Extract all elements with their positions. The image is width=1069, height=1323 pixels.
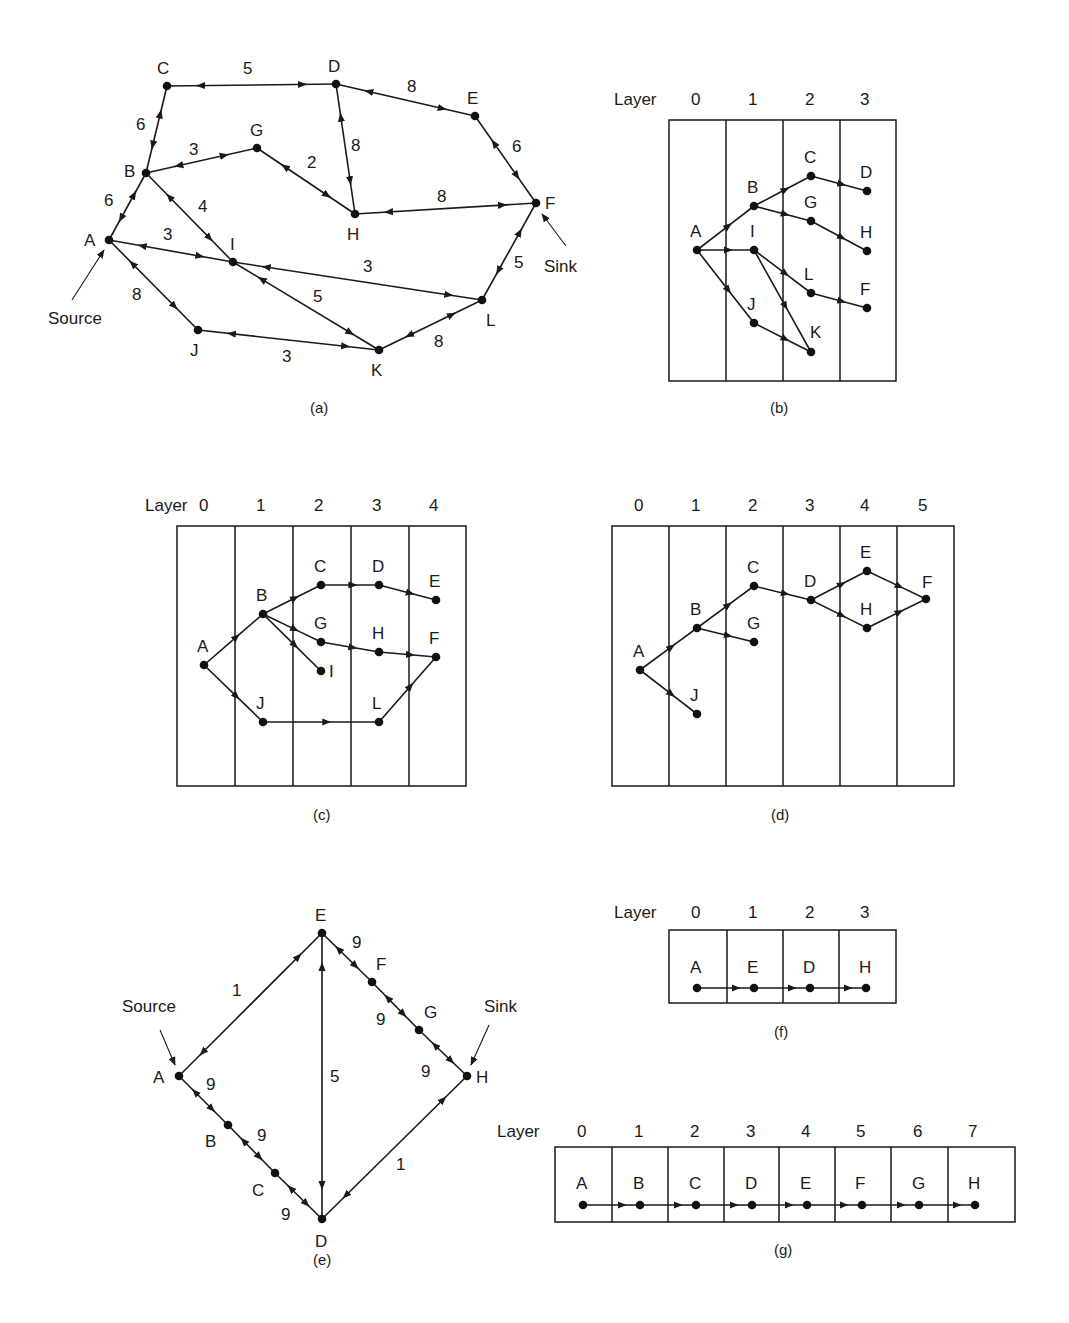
weight-G-H: 9	[421, 1062, 430, 1081]
node-label-B: B	[690, 600, 701, 619]
edge-B-I	[263, 614, 321, 671]
node-label-J: J	[256, 694, 265, 713]
layer-index-f-1: 1	[748, 903, 757, 922]
node-label-F: F	[376, 955, 386, 974]
node-label-A: A	[197, 637, 209, 656]
weight-E-F: 9	[352, 933, 361, 952]
node-F	[368, 978, 377, 987]
layer-index-d-2: 2	[748, 496, 757, 515]
node-A	[636, 666, 645, 675]
node-H	[375, 648, 384, 657]
node-label-B: B	[633, 1174, 644, 1193]
layer-index-d-0: 0	[634, 496, 643, 515]
node-label-I: I	[329, 662, 334, 681]
node-label-J: J	[190, 341, 199, 360]
node-label-E: E	[747, 958, 758, 977]
edge-B-G	[146, 148, 257, 173]
node-label-K: K	[810, 323, 822, 342]
edge-G-H	[811, 221, 867, 251]
sink-pointer	[542, 214, 566, 246]
node-A	[693, 246, 702, 255]
weight-C-D: 9	[281, 1205, 290, 1224]
node-D	[332, 80, 341, 89]
source-label: Source	[48, 309, 102, 328]
node-label-D: D	[372, 557, 384, 576]
node-D	[807, 596, 816, 605]
edge-G-H	[321, 642, 379, 652]
edge-C-D	[811, 176, 867, 191]
sink-pointer	[471, 1025, 489, 1065]
node-B	[259, 610, 268, 619]
edge-L-F	[379, 657, 436, 722]
panel-c-layered-graph: Layer 0 1 2 3 4 ABJCGIDHLEF	[145, 496, 466, 786]
layer-index-b-1: 1	[748, 90, 757, 109]
node-E	[750, 984, 759, 993]
node-label-C: C	[747, 558, 759, 577]
layer-index-c-1: 1	[256, 496, 265, 515]
node-L	[375, 718, 384, 727]
layer-index-c-3: 3	[372, 496, 381, 515]
node-D	[375, 581, 384, 590]
node-G	[415, 1026, 424, 1035]
node-C	[692, 1201, 701, 1210]
node-label-H: H	[859, 958, 871, 977]
node-label-A: A	[690, 222, 702, 241]
edge-D-H	[811, 600, 867, 628]
node-label-B: B	[256, 586, 267, 605]
node-label-I: I	[750, 222, 755, 241]
node-G	[807, 217, 816, 226]
node-label-L: L	[372, 694, 381, 713]
weight-B-I: 4	[198, 197, 207, 216]
weight-A-B: 6	[104, 191, 113, 210]
node-B	[693, 624, 702, 633]
node-label-G: G	[424, 1003, 437, 1022]
node-label-H: H	[860, 223, 872, 242]
node-G	[253, 144, 262, 153]
node-label-H: H	[347, 225, 359, 244]
edge-E-F	[475, 116, 536, 203]
node-label-E: E	[800, 1174, 811, 1193]
layer-index-f-3: 3	[860, 903, 869, 922]
node-label-F: F	[545, 194, 555, 213]
node-L	[807, 289, 816, 298]
node-label-D: D	[804, 572, 816, 591]
weight-A-B: 9	[206, 1075, 215, 1094]
layer-index-b-3: 3	[860, 90, 869, 109]
caption-c: (c)	[313, 806, 331, 823]
node-C	[163, 82, 172, 91]
node-F	[858, 1201, 867, 1210]
node-label-G: G	[912, 1174, 925, 1193]
node-label-J: J	[747, 295, 756, 314]
layer-index-c-4: 4	[429, 496, 438, 515]
weight-B-G: 3	[189, 140, 198, 159]
layer-heading-c: Layer	[145, 496, 188, 515]
edge-D-E	[811, 571, 867, 600]
node-label-C: C	[157, 59, 169, 78]
node-E	[432, 596, 441, 605]
node-B	[224, 1121, 233, 1130]
edge-L-F	[811, 293, 867, 308]
edge-D-H	[322, 1076, 467, 1219]
node-F	[863, 304, 872, 313]
weight-G-H: 2	[307, 153, 316, 172]
node-I	[750, 246, 759, 255]
weight-B-C: 9	[257, 1126, 266, 1145]
node-E	[863, 567, 872, 576]
node-C	[271, 1169, 280, 1178]
node-label-G: G	[804, 193, 817, 212]
node-label-F: F	[922, 573, 932, 592]
edge-A-E	[179, 933, 322, 1076]
edge-B-C	[228, 1125, 275, 1173]
panel-d-layered-graph: 0 1 2 3 4 5 ABJCGDEHF	[612, 496, 954, 786]
edge-D-E	[336, 84, 475, 116]
node-label-D: D	[328, 57, 340, 76]
weight-J-K: 3	[282, 347, 291, 366]
node-label-C: C	[804, 148, 816, 167]
node-J	[194, 326, 203, 335]
edge-C-D	[167, 84, 336, 86]
node-G	[915, 1201, 924, 1210]
layer-index-g-0: 0	[577, 1122, 586, 1141]
layer-index-g-7: 7	[968, 1122, 977, 1141]
edge-I-L	[233, 262, 482, 300]
edge-D-E	[379, 585, 436, 600]
